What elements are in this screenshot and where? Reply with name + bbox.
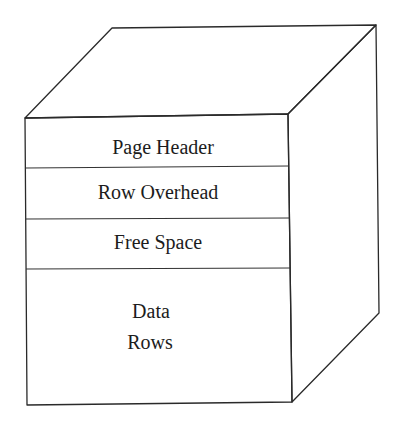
section-free-space-label: Free Space <box>114 231 202 254</box>
box-top-face <box>25 25 376 118</box>
divider-overhead-free <box>26 218 290 219</box>
section-page-header-label: Page Header <box>112 136 214 159</box>
page-structure-diagram: Page Header Row Overhead Free Space Data… <box>0 0 400 424</box>
divider-header-overhead <box>26 166 290 168</box>
section-row-overhead-label: Row Overhead <box>98 181 219 203</box>
box-right-face <box>288 25 379 402</box>
divider-free-data <box>26 268 290 269</box>
section-data-rows-label-line1: Data <box>132 300 170 322</box>
section-data-rows-label-line2: Rows <box>127 331 173 353</box>
